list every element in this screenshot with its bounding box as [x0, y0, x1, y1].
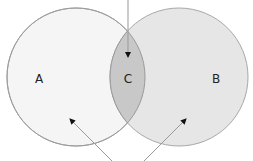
label-b: B: [212, 72, 220, 86]
venn-svg: A C B: [0, 0, 253, 161]
venn-diagram: A C B: [0, 0, 253, 161]
label-c: C: [124, 72, 132, 86]
label-a: A: [35, 72, 44, 86]
